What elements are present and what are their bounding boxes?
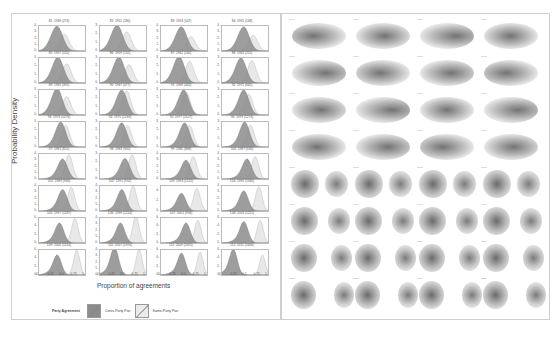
network-cluster bbox=[291, 281, 316, 309]
panel-title: 106: 1999 (1214) bbox=[93, 211, 147, 215]
network-plot: 1967 bbox=[352, 92, 414, 128]
network-cluster bbox=[420, 23, 474, 49]
network-plot: 2003 bbox=[480, 240, 542, 276]
network-plot: 1993 bbox=[416, 203, 478, 239]
panel-plot-area bbox=[38, 217, 86, 244]
network-cluster bbox=[291, 207, 318, 235]
network-cluster bbox=[523, 245, 544, 271]
network-plot: 1981 bbox=[288, 166, 350, 202]
network-cluster bbox=[420, 97, 474, 123]
x-tick: 0.25 bbox=[231, 272, 237, 276]
density-panel: 110: 2007 (1876)0-1-2-3-4- bbox=[93, 244, 147, 275]
density-panel: 103: 1993 (1122)0-2-4- bbox=[154, 180, 208, 211]
panel-plot-area bbox=[160, 217, 208, 244]
x-tick: 0.75 bbox=[254, 272, 260, 276]
network-cluster bbox=[291, 244, 317, 272]
network-label: 2011 bbox=[481, 277, 486, 280]
density-panel: 92: 1971 (645)0-1-2-3- bbox=[215, 84, 269, 115]
network-plot: 1959 bbox=[352, 55, 414, 91]
network-cluster bbox=[392, 208, 414, 234]
network-cluster bbox=[484, 23, 538, 49]
network-label: 1953 bbox=[417, 18, 423, 21]
network-cluster bbox=[483, 207, 510, 235]
panel-plot-area bbox=[221, 217, 269, 244]
network-label: 1949 bbox=[289, 18, 295, 21]
network-label: 1979 bbox=[481, 129, 487, 132]
network-plot: 1983 bbox=[352, 166, 414, 202]
panel-title: 92: 1971 (645) bbox=[215, 83, 269, 87]
panel-title: 99: 1985 (888) bbox=[154, 147, 208, 151]
x-tick: 0.5 bbox=[120, 272, 124, 276]
density-panel: 106: 1999 (1214)0-1-2-3-4- bbox=[93, 212, 147, 243]
network-plot: 2007 bbox=[352, 277, 414, 313]
panel-title: 98: 1983 (905) bbox=[93, 147, 147, 151]
density-panel: 96: 1979 (1274)0-1-2-3- bbox=[215, 116, 269, 147]
network-cluster bbox=[291, 170, 319, 198]
panel-title: 101: 1989 (966) bbox=[32, 179, 86, 183]
network-cluster bbox=[453, 171, 476, 197]
panel-title: 110: 2007 (1876) bbox=[93, 243, 147, 247]
network-label: 1975 bbox=[353, 129, 359, 132]
panel-plot-area bbox=[221, 57, 269, 84]
panel-plot-area bbox=[99, 153, 147, 180]
network-label: 1977 bbox=[417, 129, 423, 132]
network-plot: 1991 bbox=[352, 203, 414, 239]
panel-plot-area bbox=[99, 121, 147, 148]
x-tick: 1 bbox=[204, 272, 206, 276]
network-label: 1983 bbox=[353, 166, 359, 169]
network-plot: 1987 bbox=[480, 166, 542, 202]
network-plot: 1957 bbox=[288, 55, 350, 91]
network-cluster bbox=[517, 171, 540, 197]
network-cluster bbox=[483, 281, 508, 309]
network-figure: 1949195119531955195719591961196319651967… bbox=[281, 13, 550, 320]
density-panel: 87: 1961 (240)0-1-2-3- bbox=[154, 52, 208, 83]
density-panel: 93: 1973 (1076)0-1-2-3- bbox=[32, 116, 86, 147]
network-cluster bbox=[398, 282, 418, 308]
panel-title: 111: 2009 (1655) bbox=[154, 243, 208, 247]
network-plot: 1979 bbox=[480, 129, 542, 165]
density-panel: 101: 1989 (966)0-1-2-3-4- bbox=[32, 180, 86, 211]
network-label: 1959 bbox=[353, 55, 359, 58]
network-cluster bbox=[526, 282, 546, 308]
legend-swatch-cross-party bbox=[87, 304, 101, 318]
network-label: 1989 bbox=[289, 203, 295, 206]
panel-title: 103: 1993 (1122) bbox=[154, 179, 208, 183]
panel-title: 97: 1981 (811) bbox=[32, 147, 86, 151]
density-panel: 108: 2003 (1221)0-2-4-6- bbox=[215, 212, 269, 243]
network-label: 1981 bbox=[289, 166, 295, 169]
network-cluster bbox=[419, 207, 446, 235]
panel-plot-area bbox=[221, 89, 269, 116]
panel-title: 102: 1991 (932) bbox=[93, 179, 147, 183]
panel-title: 85: 1957 (155) bbox=[32, 51, 86, 55]
panel-plot-area bbox=[160, 153, 208, 180]
density-panel: 83: 1953 (147)0-1-2-3-4- bbox=[154, 20, 208, 51]
network-label: 1969 bbox=[417, 92, 423, 95]
legend-label-cross-party: Cross-Party Pair bbox=[105, 309, 131, 313]
density-panel: 94: 1975 (1269)0-1-2-3- bbox=[93, 116, 147, 147]
panel-title: 104: 1995 (1340) bbox=[215, 179, 269, 183]
density-panel: 85: 1957 (155)0-1-2-3- bbox=[32, 52, 86, 83]
network-plot: 1955 bbox=[480, 18, 542, 54]
panel-title: 88: 1963 (251) bbox=[215, 51, 269, 55]
panel-plot-area bbox=[38, 89, 86, 116]
network-label: 1963 bbox=[481, 55, 487, 58]
network-cluster bbox=[325, 171, 348, 197]
network-label: 1967 bbox=[353, 92, 359, 95]
panel-plot-area bbox=[221, 121, 269, 148]
network-cluster bbox=[483, 244, 509, 272]
panel-title: 100: 1987 (930) bbox=[215, 147, 269, 151]
network-label: 1985 bbox=[417, 166, 423, 169]
network-grid: 1949195119531955195719591961196319651967… bbox=[288, 18, 544, 314]
x-tick: 0.75 bbox=[71, 272, 77, 276]
panel-title: 84: 1955 (148) bbox=[215, 19, 269, 23]
panel-title: 87: 1961 (240) bbox=[154, 51, 208, 55]
panel-title: 112: 2011 (1606) bbox=[215, 243, 269, 247]
network-plot: 2001 bbox=[416, 240, 478, 276]
network-plot: 1985 bbox=[416, 166, 478, 202]
network-plot: 1997 bbox=[288, 240, 350, 276]
network-cluster bbox=[389, 171, 412, 197]
panel-title: 86: 1959 (155) bbox=[93, 51, 147, 55]
network-label: 1955 bbox=[481, 18, 487, 21]
network-label: 1957 bbox=[289, 55, 295, 58]
x-tick: 0 bbox=[219, 272, 221, 276]
